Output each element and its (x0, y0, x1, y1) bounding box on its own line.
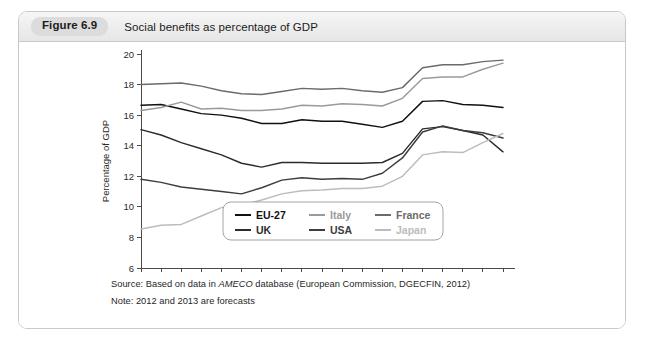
chart-canvas: 681012141618201995200020052010Percentage… (19, 42, 625, 274)
series-line-eu-27 (141, 101, 503, 128)
series-line-italy (141, 63, 503, 110)
legend-label-uk: UK (256, 224, 272, 236)
y-axis-tick-label: 12 (123, 171, 134, 182)
y-axis-tick-label: 10 (123, 201, 134, 212)
legend-label-eu-27: EU-27 (256, 209, 286, 221)
line-chart: 681012141618201995200020052010Percentage… (19, 42, 625, 274)
series-line-uk (141, 127, 503, 168)
source-database-name: AMECO (219, 279, 253, 289)
y-axis-tick-label: 6 (129, 263, 134, 274)
source-prefix: Source: Based on data in (111, 279, 219, 289)
y-axis-tick-label: 16 (123, 110, 134, 121)
series-line-usa (141, 126, 503, 194)
y-axis-tick-label: 8 (129, 232, 134, 243)
legend-label-usa: USA (330, 224, 353, 236)
screenshot-root: Figure 6.9 Social benefits as percentage… (0, 0, 647, 352)
source-suffix: database (European Commission, DGECFIN, … (253, 279, 470, 289)
figure-panel: Figure 6.9 Social benefits as percentage… (18, 11, 626, 329)
y-axis-tick-label: 20 (123, 49, 134, 60)
figure-number-badge: Figure 6.9 (31, 17, 108, 36)
legend-label-italy: Italy (330, 209, 351, 221)
y-axis-tick-label: 18 (123, 79, 134, 90)
y-axis-title: Percentage of GDP (100, 120, 111, 202)
source-note: Source: Based on data in AMECO database … (111, 279, 611, 289)
figure-notes: Source: Based on data in AMECO database … (111, 279, 611, 313)
figure-caption: Social benefits as percentage of GDP (124, 21, 318, 33)
figure-header: Figure 6.9 Social benefits as percentage… (19, 12, 625, 42)
legend-label-france: France (396, 209, 431, 221)
forecast-note: Note: 2012 and 2013 are forecasts (111, 296, 611, 306)
legend-label-japan: Japan (396, 224, 426, 236)
y-axis-tick-label: 14 (123, 140, 134, 151)
figure-body: 681012141618201995200020052010Percentage… (19, 42, 625, 329)
